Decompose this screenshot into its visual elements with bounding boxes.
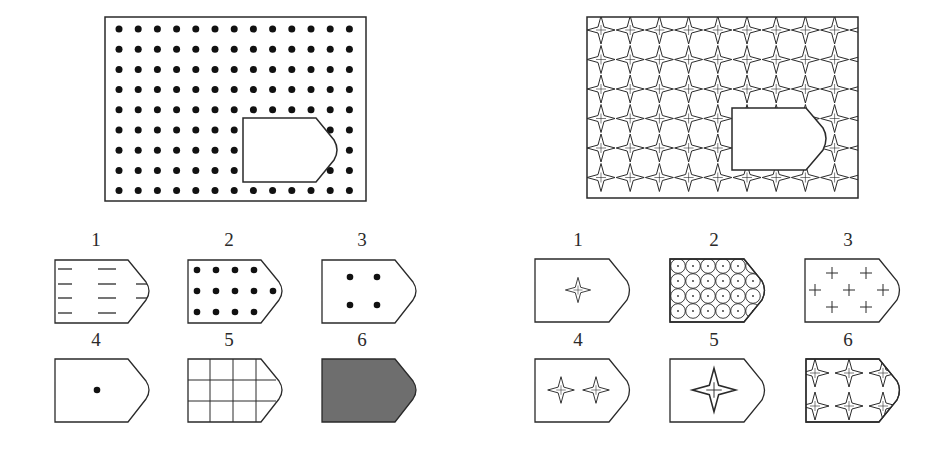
right-option-3[interactable] (805, 259, 900, 322)
left-option-4-label: 4 (91, 329, 101, 350)
right-missing-piece (732, 108, 826, 170)
right-main-frame (587, 17, 858, 198)
right-option-2[interactable] (670, 259, 765, 322)
right-main-figure (587, 16, 878, 198)
left-option-6[interactable] (322, 359, 416, 422)
puzzle-canvas: 1 2 3 4 5 6 (0, 0, 938, 450)
left-option-1-label: 1 (91, 229, 101, 250)
right-option-4-label: 4 (573, 329, 583, 350)
left-option-5[interactable] (188, 359, 282, 422)
left-option-2[interactable] (188, 260, 282, 323)
right-option-5-label: 5 (709, 329, 719, 350)
right-option-6[interactable] (801, 359, 900, 422)
right-option-2-label: 2 (709, 229, 719, 250)
right-option-6-label: 6 (843, 329, 853, 350)
right-options: 1 2 3 4 5 6 (535, 229, 900, 422)
left-option-5-label: 5 (224, 329, 234, 350)
right-option-4[interactable] (535, 359, 630, 422)
left-option-2-label: 2 (224, 229, 234, 250)
left-main-figure (105, 17, 366, 201)
left-option-3[interactable] (322, 260, 416, 323)
right-option-3-label: 3 (843, 229, 853, 250)
left-missing-piece (243, 118, 337, 182)
left-option-1[interactable] (55, 260, 149, 323)
left-option-6-label: 6 (357, 329, 367, 350)
left-options: 1 2 3 4 5 6 (55, 229, 416, 422)
left-option-3-label: 3 (357, 229, 367, 250)
right-option-1[interactable] (535, 259, 630, 322)
right-option-1-label: 1 (573, 229, 583, 250)
right-option-5[interactable] (670, 359, 765, 422)
left-option-4[interactable] (55, 359, 149, 422)
